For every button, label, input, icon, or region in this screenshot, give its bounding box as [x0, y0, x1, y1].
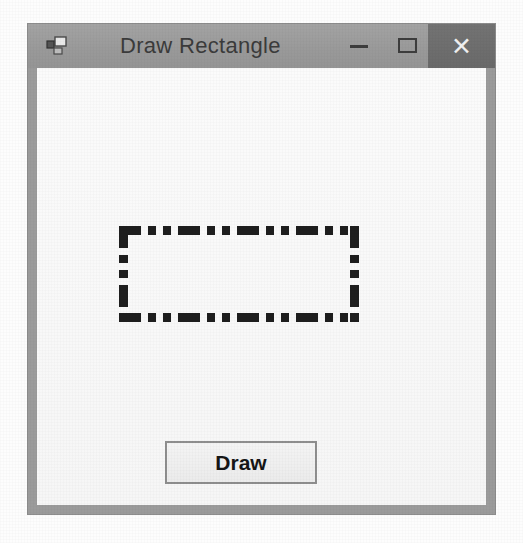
maximize-button[interactable]	[384, 24, 432, 68]
drawn-rectangle	[119, 226, 359, 322]
rectangle-top-edge	[119, 226, 359, 235]
form-client-area: Draw	[37, 68, 486, 505]
close-icon: ✕	[428, 24, 495, 68]
vb-form-icon	[46, 36, 68, 56]
draw-button[interactable]: Draw	[165, 441, 317, 484]
scanned-page: Draw Rectangle ✕ Dr	[0, 0, 523, 543]
rectangle-bottom-edge	[119, 313, 359, 322]
window-title: Draw Rectangle	[120, 24, 281, 68]
close-button[interactable]: ✕	[428, 24, 495, 68]
minimize-icon	[350, 45, 368, 48]
application-window: Draw Rectangle ✕ Dr	[28, 24, 495, 514]
rectangle-corner-top-left	[119, 226, 128, 235]
rectangle-corner-bottom-left	[119, 313, 128, 322]
rectangle-left-edge	[119, 226, 128, 322]
rectangle-corner-top-right	[350, 226, 359, 235]
maximize-icon	[398, 38, 417, 53]
minimize-button[interactable]	[336, 24, 384, 68]
rectangle-right-edge	[350, 226, 359, 322]
title-bar[interactable]: Draw Rectangle ✕	[28, 24, 495, 68]
rectangle-corner-bottom-right	[350, 313, 359, 322]
